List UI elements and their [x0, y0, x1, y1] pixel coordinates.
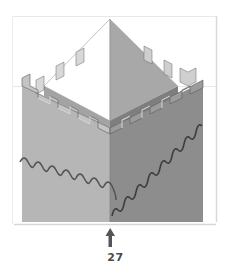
up-arrow-icon	[106, 228, 116, 247]
tower-illustration	[0, 0, 231, 274]
step-number-label: 27	[0, 251, 231, 264]
